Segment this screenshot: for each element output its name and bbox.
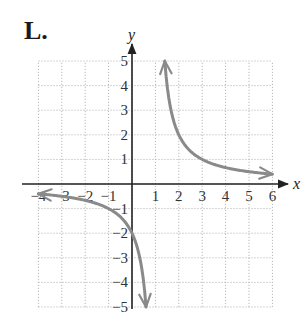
y-tick-label: −4 bbox=[112, 274, 128, 290]
y-tick-label: 2 bbox=[121, 127, 129, 143]
x-tick-label: 1 bbox=[152, 188, 160, 204]
y-tick-label: −5 bbox=[112, 299, 128, 315]
y-tick-label: 4 bbox=[121, 78, 129, 94]
x-tick-label: 5 bbox=[245, 188, 253, 204]
y-tick-label: 3 bbox=[121, 102, 129, 118]
x-tick-label: 2 bbox=[175, 188, 183, 204]
y-tick-label: −3 bbox=[112, 250, 128, 266]
x-axis-label: x bbox=[292, 175, 300, 192]
y-tick-label: −2 bbox=[112, 225, 128, 241]
curve-branch bbox=[38, 194, 146, 307]
x-tick-label: 6 bbox=[269, 188, 277, 204]
axes bbox=[22, 44, 288, 309]
graph: −4−3−2−112345654321−1−2−3−4−5 x y bbox=[0, 0, 304, 316]
y-tick-label: 5 bbox=[121, 53, 129, 69]
curve-branch bbox=[165, 61, 273, 174]
y-tick-label: 1 bbox=[121, 151, 129, 167]
x-tick-label: 4 bbox=[222, 188, 230, 204]
y-tick-label: −1 bbox=[112, 201, 128, 217]
x-tick-label: 3 bbox=[198, 188, 206, 204]
y-axis-label: y bbox=[126, 26, 136, 44]
